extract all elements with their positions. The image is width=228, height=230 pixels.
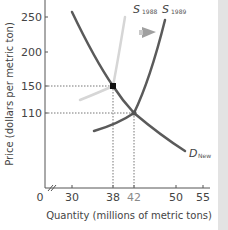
d-new-sub-label: New bbox=[198, 152, 211, 159]
x-tick-38: 38 bbox=[106, 191, 120, 204]
x-tick-42: 42 bbox=[127, 191, 141, 204]
x-tick-55: 55 bbox=[196, 191, 210, 204]
y-tick-200: 200 bbox=[21, 46, 42, 59]
y-tick-250: 250 bbox=[21, 11, 42, 24]
demand-new-curve bbox=[72, 12, 185, 151]
new-equilibrium-point bbox=[132, 111, 137, 116]
supply-1988-curve bbox=[80, 17, 125, 100]
s1988-sub-label: 1988 bbox=[142, 8, 157, 15]
s1988-label: S bbox=[133, 3, 140, 16]
y-tick-110: 110 bbox=[21, 107, 42, 120]
original-equilibrium-point bbox=[110, 83, 116, 89]
supply-demand-chart: 250 200 150 110 0 30 38 42 50 55 Price (… bbox=[0, 0, 228, 230]
shift-arrow-icon bbox=[139, 27, 156, 38]
x-tick-30: 30 bbox=[65, 191, 79, 204]
x-tick-0: 0 bbox=[37, 191, 44, 204]
dotted-guides bbox=[45, 86, 134, 188]
y-axis-title: Price (dollars per metric ton) bbox=[4, 22, 15, 166]
s1989-label: S bbox=[162, 3, 169, 16]
y-tick-150: 150 bbox=[21, 80, 42, 93]
x-tick-50: 50 bbox=[169, 191, 183, 204]
s1989-sub-label: 1989 bbox=[171, 8, 186, 15]
x-axis-title: Quantity (millions of metric tons) bbox=[46, 210, 212, 221]
d-new-label: D bbox=[189, 147, 197, 160]
page-edge-strip bbox=[218, 0, 228, 230]
